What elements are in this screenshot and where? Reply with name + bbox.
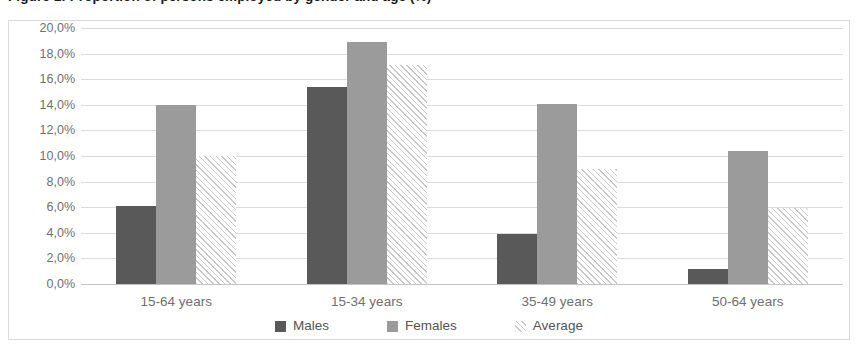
bar-group [81, 28, 272, 284]
plot-area [81, 28, 843, 284]
bar-group-bars [653, 28, 844, 284]
y-tick-label: 20,0% [40, 22, 75, 35]
x-tick-label: 15-34 years [272, 289, 463, 315]
x-tick-label: 50-64 years [653, 289, 844, 315]
bar-group-bars [272, 28, 463, 284]
bar-males[interactable] [497, 234, 537, 284]
chart-legend: MalesFemalesAverage [9, 313, 849, 339]
y-tick-label: 8,0% [47, 175, 76, 188]
y-axis: 20,0%18,0%16,0%14,0%12,0%10,0%8,0%6,0%4,… [15, 28, 75, 284]
bar-females[interactable] [728, 151, 768, 284]
x-tick-label: 35-49 years [462, 289, 653, 315]
y-tick-label: 6,0% [47, 201, 76, 214]
bar-group [272, 28, 463, 284]
y-tick-label: 14,0% [40, 99, 75, 112]
x-axis: 15-64 years15-34 years35-49 years50-64 y… [81, 289, 843, 315]
legend-label: Males [293, 319, 329, 333]
bar-average[interactable] [387, 65, 427, 284]
bar-group [462, 28, 653, 284]
bar-females[interactable] [537, 104, 577, 284]
y-tick-label: 10,0% [40, 150, 75, 163]
legend-swatch-average-icon [515, 321, 526, 332]
y-tick-label: 4,0% [47, 227, 76, 240]
bar-groups [81, 28, 843, 284]
legend-item-females[interactable]: Females [387, 319, 457, 333]
legend-label: Females [405, 319, 457, 333]
legend-swatch-females-icon [387, 321, 398, 332]
bar-average[interactable] [577, 169, 617, 284]
bar-group-bars [462, 28, 653, 284]
chart-frame: 20,0%18,0%16,0%14,0%12,0%10,0%8,0%6,0%4,… [8, 20, 850, 340]
y-tick-label: 12,0% [40, 124, 75, 137]
bar-females[interactable] [156, 105, 196, 284]
axis-baseline [81, 284, 843, 285]
bar-group-bars [81, 28, 272, 284]
y-tick-label: 0,0% [47, 278, 76, 291]
legend-item-males[interactable]: Males [275, 319, 329, 333]
y-tick-label: 16,0% [40, 73, 75, 86]
bar-males[interactable] [307, 87, 347, 284]
y-tick-label: 2,0% [47, 252, 76, 265]
figure-screenshot: Figure 1: Proportion of persons employed… [0, 0, 865, 349]
legend-swatch-males-icon [275, 321, 286, 332]
chart-plot-wrapper: 20,0%18,0%16,0%14,0%12,0%10,0%8,0%6,0%4,… [9, 21, 849, 339]
legend-item-average[interactable]: Average [515, 319, 583, 333]
legend-label: Average [533, 319, 583, 333]
x-tick-label: 15-64 years [81, 289, 272, 315]
bar-males[interactable] [116, 206, 156, 284]
bar-group [653, 28, 844, 284]
bar-average[interactable] [768, 208, 808, 284]
figure-title: Figure 1: Proportion of persons employed… [8, 0, 857, 7]
bar-average[interactable] [196, 156, 236, 284]
y-tick-label: 18,0% [40, 47, 75, 60]
bar-females[interactable] [347, 42, 387, 284]
bar-males[interactable] [688, 269, 728, 284]
